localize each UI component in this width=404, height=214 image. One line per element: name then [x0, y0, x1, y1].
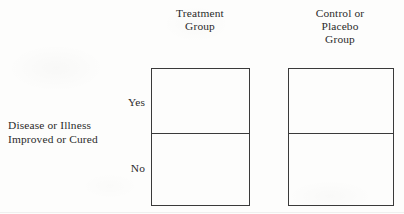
column-header-treatment: Treatment Group	[141, 7, 259, 33]
row-stub-label: Disease or Illness Improved or Cured	[8, 118, 138, 146]
row-label-no: No	[101, 162, 145, 174]
scan-artifact-line	[0, 212, 404, 213]
cell-control-yes	[289, 69, 393, 134]
contingency-figure: Treatment Group Control or Placebo Group…	[0, 0, 404, 214]
cell-control-no	[289, 134, 393, 205]
column-header-control: Control or Placebo Group	[281, 7, 399, 45]
group-box-control	[288, 68, 394, 206]
cell-treatment-yes	[152, 69, 249, 134]
group-box-treatment	[151, 68, 250, 206]
row-label-yes: Yes	[101, 96, 145, 108]
cell-treatment-no	[152, 134, 249, 205]
